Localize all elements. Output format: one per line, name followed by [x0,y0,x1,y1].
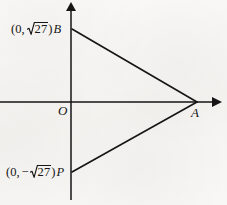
y-axis-arrow-icon [66,2,76,11]
x-axis-arrow-icon [212,97,222,107]
segment-BA-line [72,29,197,102]
point-b-name: B [52,23,61,36]
point-p-minus-sign: − [21,166,29,179]
point-p-label: ( 0 , − 27 ) P [6,163,64,179]
point-b-radicand: 27 [34,22,48,36]
coordinate-figure: ( 0 , 27 ) B ( 0 , − 27 ) P [0,0,227,205]
point-b-radical: 27 [27,20,48,36]
origin-label: O [58,104,67,117]
point-p-radicand: 27 [37,165,51,179]
point-b-comma: , [21,23,26,36]
point-a-label: A [191,106,199,119]
point-p-radical: 27 [30,163,51,179]
point-b-label: ( 0 , 27 ) B [11,20,61,36]
point-p-name: P [55,166,64,179]
segment-PA-line [72,102,197,172]
